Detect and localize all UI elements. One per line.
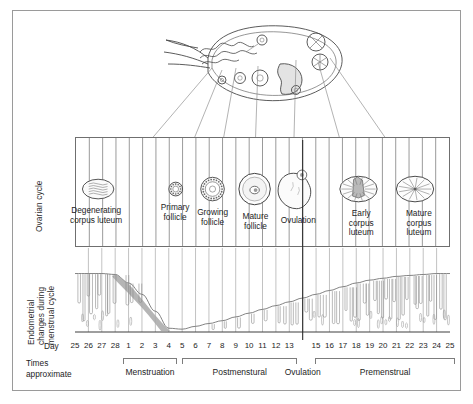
endometrial-gland-fragment bbox=[405, 323, 407, 328]
endometrial-gland bbox=[83, 274, 85, 321]
endometrial-gland bbox=[385, 279, 388, 299]
axis-title-endometrial-line1: Endometrial bbox=[26, 300, 36, 345]
day-tick-label: 24 bbox=[432, 341, 441, 350]
endometrial-gland bbox=[90, 274, 93, 314]
day-tick-label: 25 bbox=[71, 341, 80, 350]
endometrial-gland bbox=[377, 281, 379, 314]
day-tick-label: 27 bbox=[97, 341, 106, 350]
endometrial-gland-fragment bbox=[370, 311, 372, 319]
endometrial-gland bbox=[305, 299, 308, 312]
endometrial-gland bbox=[291, 302, 293, 325]
endometrial-gland-fragment bbox=[420, 313, 422, 322]
endometrial-gland bbox=[284, 306, 286, 324]
endometrial-gland bbox=[212, 324, 214, 329]
endometrial-gland bbox=[278, 306, 280, 323]
menstrual-shedding-shading bbox=[112, 274, 170, 331]
endometrial-gland bbox=[252, 314, 255, 324]
endometrial-chart bbox=[75, 132, 450, 340]
endometrial-gland bbox=[332, 291, 334, 323]
day-tick-label: 4 bbox=[167, 341, 171, 350]
endometrial-gland-fragment bbox=[447, 315, 449, 325]
day-tick-label: 22 bbox=[405, 341, 414, 350]
endometrial-gland bbox=[296, 302, 298, 324]
endometrial-gland bbox=[224, 321, 226, 328]
phase-label: Ovulation bbox=[285, 367, 321, 377]
endometrial-gland bbox=[429, 275, 431, 301]
day-tick-label: 21 bbox=[392, 341, 401, 350]
phase-label: Menstruation bbox=[125, 367, 174, 377]
day-tick-label: 7 bbox=[207, 341, 211, 350]
endometrial-gland bbox=[309, 299, 312, 321]
day-tick-label: 12 bbox=[271, 341, 280, 350]
endometrial-gland bbox=[345, 287, 347, 310]
ovary-cross-section-illustration bbox=[150, 14, 360, 122]
day-tick-label: 8 bbox=[220, 341, 224, 350]
endometrial-gland bbox=[393, 279, 396, 302]
phase-label: Postmenstural bbox=[213, 367, 267, 377]
phase-bracket bbox=[123, 358, 177, 364]
endometrial-gland bbox=[323, 295, 326, 317]
endometrial-gland bbox=[350, 287, 352, 321]
endometrial-gland-fragment bbox=[99, 320, 101, 330]
endometrial-gland bbox=[402, 277, 404, 315]
endometrial-gland bbox=[427, 275, 429, 316]
phase-label: Premenstrual bbox=[360, 367, 411, 377]
endometrial-gland bbox=[406, 277, 408, 300]
endometrial-gland-fragment bbox=[117, 320, 119, 328]
endometrial-panel bbox=[75, 262, 450, 340]
day-tick-label: 26 bbox=[84, 341, 93, 350]
endometrial-gland bbox=[358, 284, 360, 321]
day-tick-label: 16 bbox=[325, 341, 334, 350]
endometrial-gland bbox=[363, 284, 366, 304]
day-tick-label: 6 bbox=[193, 341, 197, 350]
day-tick-label: 1 bbox=[126, 341, 130, 350]
endometrial-gland bbox=[419, 276, 422, 304]
endometrial-gland-fragment bbox=[443, 310, 445, 319]
endometrial-gland-fragment bbox=[377, 320, 379, 329]
endometrial-gland-fragment bbox=[354, 320, 356, 326]
day-tick-label: 2 bbox=[140, 341, 144, 350]
day-axis-caption: Day bbox=[44, 341, 59, 351]
endometrial-gland bbox=[366, 284, 368, 316]
endometrial-gland bbox=[434, 275, 437, 319]
day-tick-label: 9 bbox=[233, 341, 237, 350]
day-tick-label: 25 bbox=[446, 341, 455, 350]
endometrial-gland-fragment bbox=[93, 314, 95, 319]
day-tick-label: 23 bbox=[419, 341, 428, 350]
endometrial-gland-fragment bbox=[402, 321, 404, 328]
axis-title-ovarian-cycle: Ovarian cycle bbox=[34, 180, 44, 232]
day-tick-label: 5 bbox=[180, 341, 184, 350]
day-tick-label: 10 bbox=[245, 341, 254, 350]
phase-bracket-row: MenstruationPostmensturalOvulationPremen… bbox=[75, 358, 457, 392]
times-approximate-caption: Times approximate bbox=[26, 358, 72, 379]
endometrial-gland-fragment bbox=[86, 320, 88, 326]
endometrial-gland bbox=[440, 274, 443, 309]
endometrial-gland bbox=[238, 318, 241, 329]
figure-root: Ovarian cycle Endometrial changes during… bbox=[0, 0, 473, 404]
endometrial-gland bbox=[398, 277, 400, 320]
axis-title-endometrial-line2: changes during bbox=[36, 287, 46, 345]
phase-bracket bbox=[315, 358, 456, 364]
endometrial-gland bbox=[98, 274, 101, 295]
endometrial-gland-fragment bbox=[130, 317, 132, 325]
axis-title-endometrial-line3: menstrual cycle bbox=[46, 286, 56, 345]
day-tick-label: 13 bbox=[285, 341, 294, 350]
day-tick-label: 11 bbox=[258, 341, 266, 350]
endometrial-gland-fragment bbox=[313, 311, 315, 318]
day-tick-label: 28 bbox=[111, 341, 120, 350]
endometrial-gland bbox=[78, 274, 81, 303]
endometrial-gland bbox=[264, 310, 267, 321]
endometrial-gland bbox=[374, 281, 377, 301]
day-tick-label: 17 bbox=[338, 341, 347, 350]
endometrial-gland-fragment bbox=[385, 319, 387, 325]
day-tick-label: 15 bbox=[312, 341, 321, 350]
endometrial-gland bbox=[318, 295, 320, 317]
day-tick-label: 3 bbox=[153, 341, 157, 350]
endometrial-gland bbox=[389, 279, 391, 319]
day-tick-label: 18 bbox=[352, 341, 361, 350]
phase-bracket bbox=[182, 358, 297, 364]
endometrial-gland bbox=[337, 291, 340, 324]
day-tick-label: 20 bbox=[379, 341, 388, 350]
day-tick-label: 19 bbox=[365, 341, 374, 350]
endometrial-gland bbox=[96, 274, 98, 309]
